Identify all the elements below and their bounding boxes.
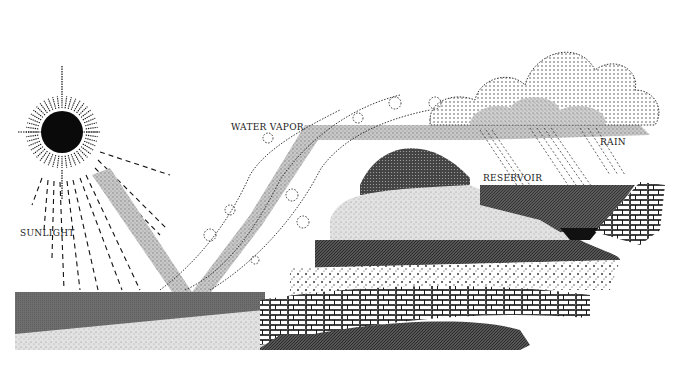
clouds bbox=[430, 52, 659, 125]
reservoir-label: RESERVOIR bbox=[483, 173, 542, 183]
rain-label: RAIN bbox=[600, 137, 626, 147]
water-cycle-diagram bbox=[0, 0, 673, 367]
mountain-strata bbox=[260, 148, 620, 345]
sunlight-beam bbox=[92, 168, 192, 292]
water-vapor-label: WATER VAPOR bbox=[231, 122, 304, 132]
sunlight-label: SUNLIGHT bbox=[20, 228, 75, 238]
